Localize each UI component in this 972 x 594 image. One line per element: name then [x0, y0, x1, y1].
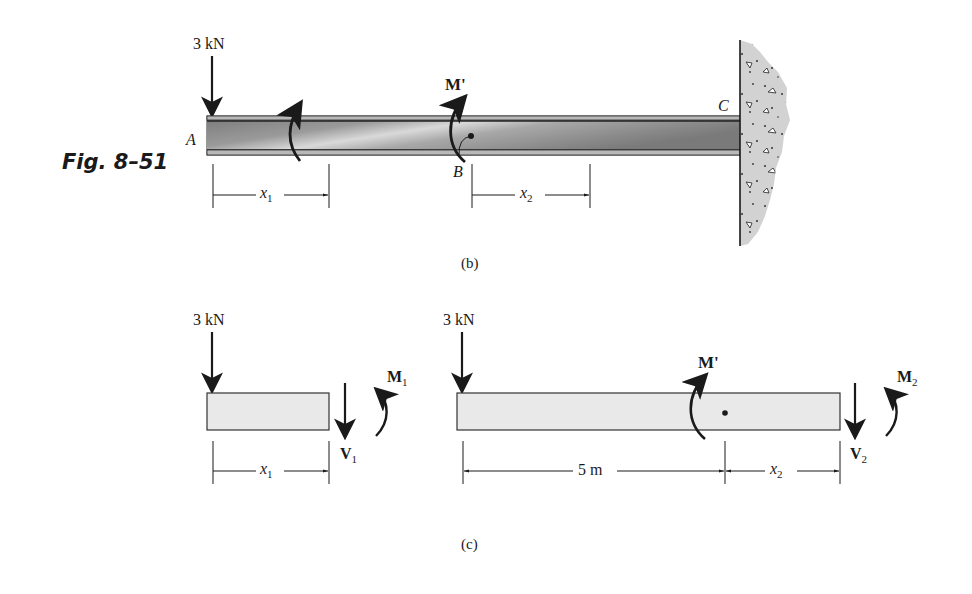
moment-arrow-m2 [886, 390, 897, 436]
fbd-segment-left [207, 393, 329, 430]
moment-arrow-m1 [376, 390, 387, 436]
load-label-c-right: 3 kN [443, 311, 475, 329]
point-a-label: A [186, 131, 196, 149]
moment-label-m2: M2 [897, 368, 918, 388]
m2-var: M [897, 368, 912, 385]
dim-x2-label-c: x2 [770, 460, 783, 480]
m2-sub: 2 [912, 376, 918, 388]
dim-x1-sub-b: 1 [267, 192, 273, 204]
dimension-5m [463, 441, 840, 484]
shear-label-v1: V1 [340, 445, 357, 465]
dim-x2-sub-b: 2 [527, 192, 533, 204]
dim-x2-label-b: x2 [520, 184, 533, 204]
caption-b: (b) [461, 255, 479, 272]
fbd-segment-right [457, 393, 840, 430]
point-b-marker-c [722, 410, 728, 416]
part-c-left-fbd [207, 332, 387, 484]
v1-sub: 1 [352, 453, 358, 465]
shear-label-v2: V2 [850, 445, 867, 465]
dim-x1-label-b: x1 [260, 184, 273, 204]
v2-sub: 2 [862, 453, 868, 465]
m1-sub: 1 [402, 376, 408, 388]
dim-x1-label-c: x1 [260, 460, 273, 480]
dim-x2-sub-c: 2 [777, 468, 783, 480]
point-c-label: C [718, 97, 729, 115]
moment-label-mprime-c: M' [698, 353, 719, 373]
figure-label: Fig. 8–51 [62, 150, 168, 174]
point-b-label: B [453, 163, 463, 181]
v1-var: V [340, 445, 352, 462]
load-label-b: 3 kN [193, 35, 225, 53]
part-c-right-fbd [457, 332, 897, 484]
diagram-canvas: Fig. 8–51 3 kN M' A B C x1 x2 (b) 3 kN M… [0, 0, 972, 594]
v2-var: V [850, 445, 862, 462]
dim-5m-label: 5 m [578, 461, 602, 479]
caption-c: (c) [461, 536, 478, 553]
part-b-diagram [207, 40, 790, 246]
m1-var: M [387, 368, 402, 385]
load-label-c-left: 3 kN [193, 311, 225, 329]
moment-label-m1: M1 [387, 368, 408, 388]
moment-label-b: M' [445, 75, 466, 95]
fixed-wall-support [740, 40, 790, 246]
dim-x1-sub-c: 1 [267, 468, 273, 480]
